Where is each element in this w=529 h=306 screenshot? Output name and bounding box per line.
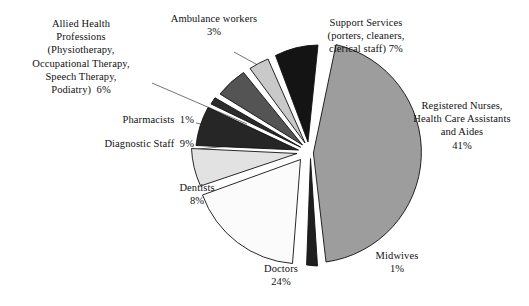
- slice-label-ambulance-workers: Ambulance workers 3%: [150, 12, 278, 38]
- slice-registered-nurses: [313, 45, 421, 262]
- slice-label-diagnostic-staff: Diagnostic Staff 9%: [54, 137, 194, 150]
- slice-label-dentists: Dentists 8%: [160, 181, 234, 207]
- slice-label-allied-health: Allied Health Professions (Physiotherapy…: [2, 17, 160, 96]
- slice-label-registered-nurses: Registered Nurses, Health Care Assistant…: [396, 99, 528, 152]
- pie-slices: [192, 45, 422, 266]
- slice-label-midwives: Midwives 1%: [352, 249, 442, 275]
- slice-label-support-services: Support Services (porters, cleaners, cle…: [296, 16, 436, 56]
- pie-chart-page: Allied Health Professions (Physiotherapy…: [0, 0, 529, 306]
- slice-label-doctors: Doctors 24%: [228, 262, 334, 288]
- slice-label-pharmacists: Pharmacists 1%: [50, 113, 194, 126]
